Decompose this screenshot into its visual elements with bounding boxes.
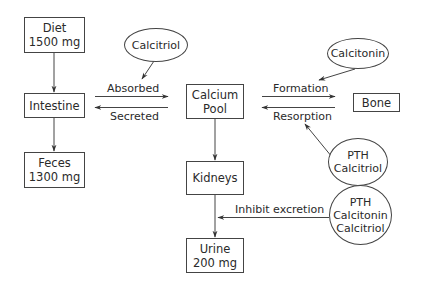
calcitriol-label-3: Calcitriol bbox=[336, 222, 384, 235]
pth-calcitriol-regulator: PTH Calcitriol bbox=[328, 138, 388, 186]
calcitonin-regulator: Calcitonin bbox=[327, 38, 389, 69]
pth-calcitonin-calcitriol-regulator: PTH Calcitonin Calcitriol bbox=[329, 185, 392, 245]
feces-amount: 1300 mg bbox=[29, 170, 80, 184]
resorption-label: Resorption bbox=[273, 111, 332, 123]
pth-label-2: PTH bbox=[350, 196, 372, 209]
kidneys-label: Kidneys bbox=[192, 171, 237, 185]
diet-node: Diet 1500 mg bbox=[24, 17, 85, 53]
calcitonin-arrow bbox=[319, 69, 355, 80]
pth-label: PTH bbox=[347, 149, 369, 162]
calcitriol-arrow bbox=[142, 61, 154, 79]
inhibit-excretion-label: Inhibit excretion bbox=[235, 204, 324, 216]
intestine-node: Intestine bbox=[24, 93, 85, 118]
feces-label: Feces bbox=[38, 156, 70, 170]
secreted-label: Secreted bbox=[110, 111, 159, 123]
kidneys-node: Kidneys bbox=[186, 161, 244, 195]
calcium-pool-label-1: Calcium bbox=[192, 88, 238, 102]
calcium-pool-node: Calcium Pool bbox=[186, 84, 244, 119]
urine-amount: 200 mg bbox=[193, 256, 237, 270]
urine-node: Urine 200 mg bbox=[186, 238, 244, 273]
calcitonin-label: Calcitonin bbox=[331, 47, 386, 60]
diet-amount: 1500 mg bbox=[29, 35, 80, 49]
absorbed-label: Absorbed bbox=[107, 83, 159, 95]
calcium-pool-label-2: Pool bbox=[203, 102, 227, 116]
formation-label: Formation bbox=[273, 83, 329, 95]
bone-node: Bone bbox=[353, 93, 400, 112]
pth-calcitriol-arrow bbox=[305, 124, 332, 157]
intestine-label: Intestine bbox=[29, 99, 79, 113]
feces-node: Feces 1300 mg bbox=[24, 152, 85, 188]
calcitriol-label: Calcitriol bbox=[132, 39, 180, 52]
bone-label: Bone bbox=[362, 96, 391, 110]
urine-label: Urine bbox=[200, 242, 231, 256]
diet-label: Diet bbox=[43, 21, 67, 35]
calcitriol-label-2: Calcitriol bbox=[334, 162, 382, 175]
calcitonin-label-2: Calcitonin bbox=[333, 209, 388, 222]
calcitriol-regulator: Calcitriol bbox=[124, 28, 188, 62]
